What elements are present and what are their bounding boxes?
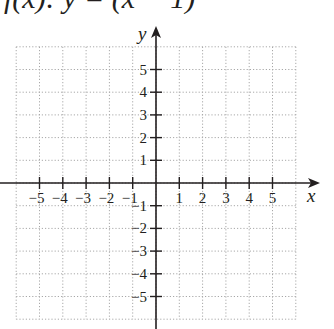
x-tick-label: −2 [98,190,114,206]
x-tick-label: 5 [269,190,277,206]
y-tick-label: −5 [131,289,147,305]
x-tick-label: 2 [199,190,207,206]
y-tick-label: 2 [140,130,148,146]
y-axis-label: y [136,23,147,44]
y-tick-label: 1 [140,152,148,168]
x-axis-label: x [306,185,316,206]
x-tick-label: −3 [75,190,91,206]
y-tick-label: −3 [131,243,147,259]
y-tick-label: 4 [140,84,148,100]
y-tick-label: −1 [131,198,147,214]
x-tick-label: 1 [176,190,184,206]
y-tick-label: 5 [140,62,148,78]
y-tick-label: −4 [131,266,147,282]
x-tick-label: 4 [245,190,253,206]
coordinate-plane: −5−4−3−2−112345−5−4−3−2−112345 x y [0,0,334,329]
x-tick-label: 3 [222,190,230,206]
y-tick-label: 3 [140,107,148,123]
y-tick-label: −2 [131,220,147,236]
x-tick-label: −4 [52,190,68,206]
x-tick-label: −5 [29,190,45,206]
